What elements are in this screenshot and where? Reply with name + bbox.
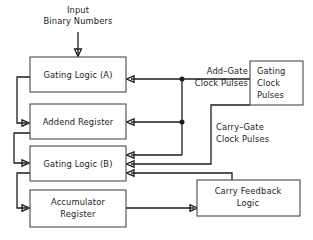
add-gate-bus-group [127, 76, 251, 158]
box-label-gating-clock-line2: Clock [257, 78, 280, 88]
wire-label-carry-gate-line2: Clock Pulses [216, 134, 269, 144]
input-arrow-group [75, 32, 82, 57]
feedback-loop-addend-to-b [14, 133, 30, 166]
feedback-wire-addend [14, 133, 30, 163]
accumulator-to-carry-feedback-group [126, 205, 198, 211]
box-label-gating-logic-b: Gating Logic (B) [43, 159, 112, 169]
gating-b-prefix: Gating Logic ( [43, 159, 103, 169]
feedback-loop-b-to-accumulator [17, 173, 30, 211]
wire-label-carry-gate-line1: Carry–Gate [216, 122, 264, 132]
box-label-accumulator-line1: Accumulator [51, 197, 105, 207]
junction-dot-addend [180, 120, 185, 125]
box-label-carry-feedback-line1: Carry Feedback [215, 186, 282, 196]
carry-feedback-return-wire [131, 173, 232, 180]
feedback-wire-a [17, 77, 30, 123]
gating-a-prefix: Gating Logic ( [43, 70, 103, 80]
wire-label-add-gate-line2: Clock Pulses [195, 78, 248, 88]
junction-dot-a [180, 77, 185, 82]
input-label-line2: Binary Numbers [43, 16, 112, 26]
feedback-wire-b [17, 173, 30, 208]
input-label-line1: Input [67, 5, 90, 15]
box-label-gating-clock-line1: Gating [257, 66, 286, 76]
carry-feedback-return-group [127, 170, 233, 180]
box-label-addend-register: Addend Register [43, 117, 114, 127]
box-label-gating-clock-line3: Pulses [257, 90, 284, 100]
box-label-carry-feedback-line2: Logic [237, 198, 260, 208]
box-label-gating-logic-a: Gating Logic (A) [43, 70, 112, 80]
gating-b-suffix: ) [109, 159, 112, 169]
feedback-loop-a-to-addend [17, 77, 30, 126]
box-label-accumulator-line2: Register [60, 209, 96, 219]
wire-label-add-gate-line1: Add–Gate [207, 66, 248, 76]
diagram-canvas: Input Binary Numbers Gating Logic (A) Ad… [0, 0, 313, 240]
block-diagram: Input Binary Numbers Gating Logic (A) Ad… [0, 0, 313, 240]
gating-a-suffix: ) [109, 70, 112, 80]
